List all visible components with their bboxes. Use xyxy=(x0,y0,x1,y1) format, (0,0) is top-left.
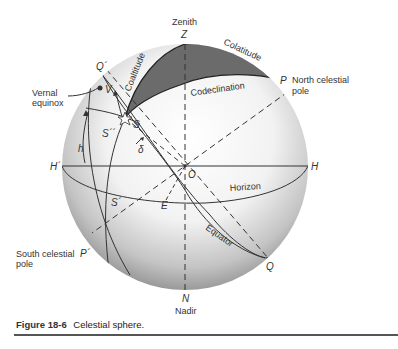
figure-number: Figure 18-6 xyxy=(16,319,67,330)
q-label: Q xyxy=(266,261,274,272)
s-double-prime-label: S´´ xyxy=(102,128,116,139)
p-prime-label: P´ xyxy=(80,248,91,259)
s-label: S xyxy=(133,119,140,130)
q-prime-label: Q´ xyxy=(96,61,108,72)
figure-caption: Figure 18-6 Celestial sphere. xyxy=(16,319,144,330)
n-label: N xyxy=(182,293,190,304)
o-label: O xyxy=(188,169,196,180)
figure-title: Celestial sphere. xyxy=(73,319,144,330)
caption-rule xyxy=(14,334,398,336)
south-pole-label-2: pole xyxy=(16,259,33,269)
south-pole-label: South celestial xyxy=(16,249,75,259)
h-prime-label: H´ xyxy=(50,161,61,172)
equinox-label: equinox xyxy=(32,98,64,108)
delta-label: δ xyxy=(138,144,144,155)
vernal-label: Vernal xyxy=(32,88,58,98)
z-label: Z xyxy=(180,29,188,40)
zenith-label: Zenith xyxy=(172,17,197,27)
north-pole-label-2: pole xyxy=(292,86,309,96)
nadir-label: Nadir xyxy=(175,306,197,316)
h-label: h xyxy=(78,143,84,154)
north-pole-label: North celestial xyxy=(292,75,349,85)
h-east-label: H xyxy=(311,161,319,172)
p-label: P xyxy=(280,75,287,86)
e-label: E xyxy=(161,200,168,211)
s-prime-label: S´ xyxy=(111,197,122,208)
vernal-equinox-dot xyxy=(98,86,103,91)
celestial-sphere-diagram: Zenith Z Colatitude Coaltitude Codeclina… xyxy=(0,0,398,349)
